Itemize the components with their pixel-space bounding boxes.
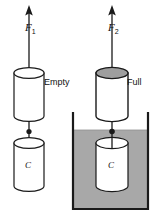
upper-cylinder-top-left [14,68,44,79]
force-label-f1-subscript: 1 [32,28,36,35]
force-label-f1-symbol: F [25,21,32,33]
upper-cylinder-body-right [96,73,128,122]
force-label-f2-symbol: F [108,21,115,33]
lower-cylinder-label-c-right: C [108,160,114,170]
upper-cylinder-top-right-shaded [96,67,128,78]
string-knot-left [26,129,31,134]
lower-cylinder-label-c-left: C [25,160,31,170]
lower-cylinder-top-left [14,138,44,149]
force-label-f2-subscript: 2 [115,28,119,35]
force-label-f2: F2 [108,21,119,35]
force-label-f1: F1 [25,21,36,35]
upper-cylinder-label-full: Full [127,77,142,87]
diagram-canvas [0,0,154,216]
upper-cylinder-label-empty: Empty [44,77,70,87]
string-knot-right [109,129,115,135]
physics-diagram-buoyancy: F1 F2 Empty Full C C [0,0,154,216]
upper-cylinder-body-left [14,73,44,121]
